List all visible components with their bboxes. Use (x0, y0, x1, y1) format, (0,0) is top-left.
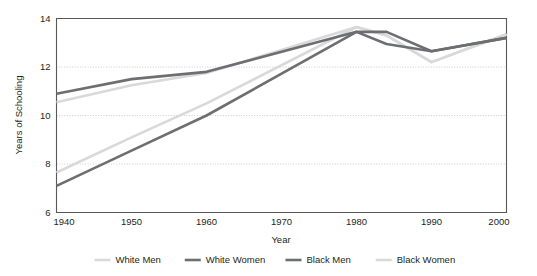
x-tick-label-1950: 1950 (121, 216, 142, 227)
y-tick-label-8: 8 (45, 158, 50, 169)
y-axis-title: Years of Schooling (13, 76, 24, 155)
chart-background (0, 0, 537, 276)
legend-label-black-men: Black Men (307, 254, 351, 265)
chart-container: 68101214 1940195019601970198019902000 Ye… (0, 0, 537, 276)
x-tick-label-1970: 1970 (271, 216, 292, 227)
legend-label-white-men: White Men (116, 254, 161, 265)
x-tick-label-1980: 1980 (346, 216, 367, 227)
y-tick-label-12: 12 (40, 61, 51, 72)
legend-label-white-women: White Women (206, 254, 265, 265)
legend-label-black-women: Black Women (397, 254, 455, 265)
y-tick-label-10: 10 (40, 110, 51, 121)
y-tick-label-14: 14 (40, 13, 51, 24)
x-tick-label-1960: 1960 (196, 216, 217, 227)
x-tick-label-2000: 2000 (488, 216, 509, 227)
x-tick-label-1990: 1990 (421, 216, 442, 227)
line-chart: 68101214 1940195019601970198019902000 Ye… (0, 0, 537, 276)
y-tick-label-6: 6 (45, 207, 50, 218)
x-tick-label-1940: 1940 (54, 216, 75, 227)
x-tick-labels-group: 1940195019601970198019902000 (54, 216, 510, 227)
x-axis-title: Year (271, 234, 290, 245)
